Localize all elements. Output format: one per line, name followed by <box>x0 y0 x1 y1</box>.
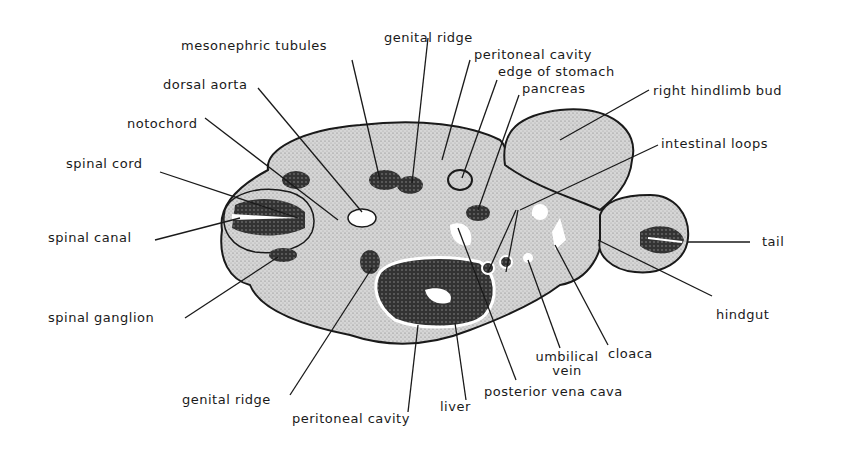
label-liver: liver <box>440 400 471 414</box>
label-right-hindlimb-bud: right hindlimb bud <box>653 84 782 98</box>
stomach-edge-shape <box>448 170 472 190</box>
label-intestinal-loops: intestinal loops <box>661 137 768 151</box>
label-tail: tail <box>762 235 784 249</box>
embryo-section-drawing <box>0 0 845 453</box>
label-spinal-cord: spinal cord <box>66 157 143 171</box>
label-umbilical-line1: umbilical <box>527 350 607 364</box>
label-genital-ridge-bottom: genital ridge <box>182 393 271 407</box>
label-umbilical-vein: umbilical vein <box>527 350 607 378</box>
label-spinal-canal: spinal canal <box>48 231 132 245</box>
label-pancreas: pancreas <box>522 82 585 96</box>
label-peritoneal-cavity-top: peritoneal cavity <box>474 48 592 62</box>
label-cloaca: cloaca <box>608 347 653 361</box>
label-hindgut: hindgut <box>716 308 769 322</box>
label-dorsal-aorta: dorsal aorta <box>163 78 247 92</box>
label-edge-of-stomach: edge of stomach <box>498 65 615 79</box>
label-umbilical-line2: vein <box>527 364 607 378</box>
label-mesonephric-tubules: mesonephric tubules <box>181 39 327 53</box>
label-spinal-ganglion: spinal ganglion <box>48 311 154 325</box>
label-genital-ridge-top: genital ridge <box>384 31 473 45</box>
label-notochord: notochord <box>127 117 197 131</box>
label-posterior-vena-cava: posterior vena cava <box>484 385 623 399</box>
label-peritoneal-cavity-bottom: peritoneal cavity <box>292 412 410 426</box>
